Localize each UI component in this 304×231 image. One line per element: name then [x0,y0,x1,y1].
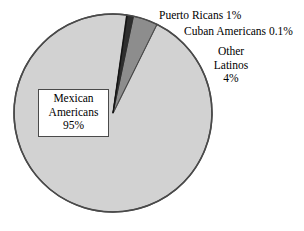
slice-label-other-latinos-line1: Other [200,45,262,59]
slice-label-mexican-americans: Mexican Americans 95% [38,89,109,137]
slice-label-other-latinos: Other Latinos 4% [200,45,262,86]
pie-chart-figure: Puerto Ricans 1% Cuban Americans 0.1% Ot… [0,0,304,231]
slice-label-other-latinos-line2: Latinos [200,59,262,73]
slice-label-puerto-ricans: Puerto Ricans 1% [159,9,241,23]
slice-label-mexican-americans-line2: Americans [39,106,108,120]
slice-label-other-latinos-line3: 4% [200,72,262,86]
slice-label-mexican-americans-line1: Mexican [39,92,108,106]
slice-label-cuban-americans: Cuban Americans 0.1% [184,25,293,39]
slice-label-mexican-americans-line3: 95% [39,119,108,133]
